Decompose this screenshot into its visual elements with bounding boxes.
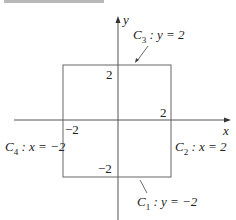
curve-name: C	[133, 27, 142, 42]
tick-y-bottom: −2	[98, 162, 112, 175]
y-axis-label: y	[123, 13, 129, 26]
curve-name: C	[137, 194, 146, 209]
curve-eq: : x = −2	[18, 139, 65, 154]
c1-pointer	[140, 180, 147, 193]
x-axis-label: x	[223, 124, 229, 137]
curve-c2-label: C2 : x = 2	[175, 140, 227, 157]
tick-x-left: −2	[65, 123, 79, 136]
tick-x-right: 2	[160, 106, 167, 119]
c3-pointer	[137, 46, 148, 61]
curve-eq: : y = −2	[150, 194, 197, 209]
curve-c4-label: C4 : x = −2	[5, 140, 65, 157]
curve-c1-label: C1 : y = −2	[137, 195, 197, 212]
curve-name: C	[175, 139, 184, 154]
curve-c3-label: C3 : y = 2	[133, 28, 185, 45]
curve-eq: : x = 2	[188, 139, 226, 154]
y-axis-arrow-icon	[116, 16, 121, 23]
diagram-canvas	[0, 0, 236, 220]
curve-eq: : y = 2	[146, 27, 184, 42]
tick-y-top: 2	[106, 68, 113, 81]
x-axis-arrow-icon	[224, 118, 231, 123]
square-region	[63, 65, 171, 177]
curve-name: C	[5, 139, 14, 154]
